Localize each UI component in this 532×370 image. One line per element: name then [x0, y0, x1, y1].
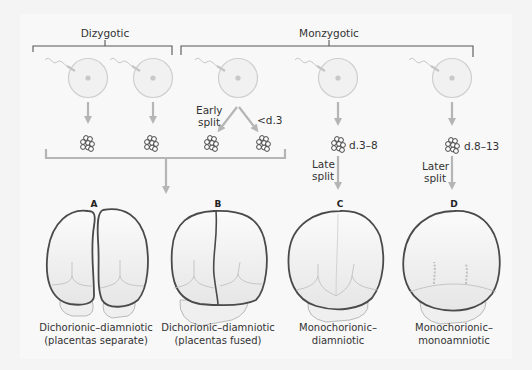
monozygotic-label: Monzygotic — [299, 27, 359, 39]
caption-a: Dichorionic–diamniotic (placentas separa… — [39, 321, 152, 347]
caption-d-line-1: Monochorionic– — [415, 321, 493, 334]
caption-b-line-1: Dichorionic–diamniotic — [161, 321, 274, 334]
caption-c-line-2: diamniotic — [299, 334, 377, 347]
early-split-line-2: split — [196, 116, 222, 128]
early-split-label: Early split — [196, 104, 222, 128]
outcome-letter-a: A — [91, 199, 98, 209]
later-day-label: d.8–13 — [464, 140, 499, 152]
caption-a-line-2: (placentas separate) — [39, 334, 152, 347]
dizygotic-label: Dizygotic — [81, 27, 130, 39]
caption-c-line-1: Monochorionic– — [299, 321, 377, 334]
diagram-graphics — [0, 0, 532, 370]
early-day-label: <d.3 — [257, 114, 282, 126]
outcome-letter-d: D — [450, 199, 457, 209]
caption-d-line-2: monoamniotic — [415, 334, 493, 347]
later-split-line-2: split — [422, 172, 448, 184]
late-split-line-1: Late — [312, 158, 334, 170]
late-split-line-2: split — [312, 170, 334, 182]
caption-a-line-1: Dichorionic–diamniotic — [39, 321, 152, 334]
caption-d: Monochorionic– monoamniotic — [415, 321, 493, 347]
later-split-label: Later split — [422, 160, 448, 184]
caption-b-line-2: (placentas fused) — [161, 334, 274, 347]
late-day-label: d.3–8 — [349, 139, 378, 151]
outcome-letter-c: C — [337, 199, 344, 209]
caption-c: Monochorionic– diamniotic — [299, 321, 377, 347]
late-split-label: Late split — [312, 158, 334, 182]
later-split-line-1: Later — [422, 160, 448, 172]
twinning-diagram: Dizygotic Monzygotic Early split <d.3 d.… — [0, 0, 532, 370]
caption-b: Dichorionic–diamniotic (placentas fused) — [161, 321, 274, 347]
early-split-line-1: Early — [196, 104, 222, 116]
outcome-letter-b: B — [215, 199, 222, 209]
